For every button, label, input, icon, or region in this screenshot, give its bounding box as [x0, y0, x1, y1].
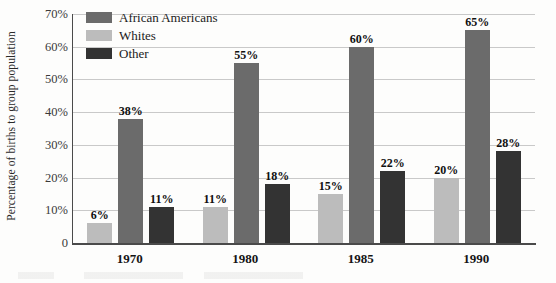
x-axis-tick-label: 1970: [72, 252, 188, 265]
y-axis-tick-label: 70%: [26, 8, 68, 21]
bar: [349, 47, 374, 243]
y-axis-tick-label: 40%: [26, 106, 68, 119]
x-axis-tick-label: 1985: [303, 252, 419, 265]
bar-value-label: 15%: [309, 180, 352, 192]
y-axis-tick-label: 10%: [26, 204, 68, 217]
legend-label: African Americans: [119, 11, 218, 24]
bar: [434, 178, 459, 243]
legend-item: Other: [86, 45, 218, 61]
y-axis-tick-label: 30%: [26, 139, 68, 152]
y-axis-tick-label: 0: [26, 237, 68, 250]
bar: [87, 223, 112, 243]
legend-item: African Americans: [86, 9, 218, 25]
x-axis-tick-label: 1980: [188, 252, 304, 265]
bar: [380, 171, 405, 243]
bar: [149, 207, 174, 243]
y-axis-tick-labels: 010%20%30%40%50%60%70%: [22, 0, 68, 252]
bar: [265, 184, 290, 243]
legend-swatch: [86, 12, 112, 23]
bar-value-label: 28%: [487, 137, 530, 149]
bar: [234, 63, 259, 243]
x-axis-tick-label: 1990: [419, 252, 535, 265]
y-axis-tick-label: 60%: [26, 41, 68, 54]
legend-label: Other: [119, 47, 149, 60]
legend-swatch: [86, 30, 112, 41]
y-axis-title-text: Percentage of births to group population: [5, 31, 17, 221]
bar-value-label: 55%: [225, 49, 268, 61]
scan-artifact: [18, 272, 318, 279]
y-axis-tick-label: 20%: [26, 172, 68, 185]
bar-value-label: 60%: [340, 33, 383, 45]
bar: [203, 207, 228, 243]
bar-chart-figure: Percentage of births to group population…: [0, 0, 556, 283]
chart-legend: African AmericansWhitesOther: [86, 9, 218, 61]
bar: [318, 194, 343, 243]
bar-value-label: 18%: [256, 170, 299, 182]
legend-label: Whites: [119, 29, 156, 42]
y-axis-title: Percentage of births to group population: [0, 0, 22, 252]
bar-value-label: 38%: [109, 105, 152, 117]
bar-value-label: 65%: [456, 16, 499, 28]
bar: [496, 151, 521, 243]
legend-item: Whites: [86, 27, 218, 43]
bar-value-label: 22%: [371, 157, 414, 169]
bar: [118, 119, 143, 243]
bar-value-label: 11%: [140, 193, 183, 205]
legend-swatch: [86, 48, 112, 59]
bar-value-label: 11%: [194, 193, 237, 205]
bar-value-label: 6%: [78, 209, 121, 221]
y-axis-tick-label: 50%: [26, 73, 68, 86]
x-axis-tick-labels: 1970198019851990: [72, 248, 534, 270]
x-axis-line: [72, 243, 536, 245]
bar-value-label: 20%: [425, 164, 468, 176]
